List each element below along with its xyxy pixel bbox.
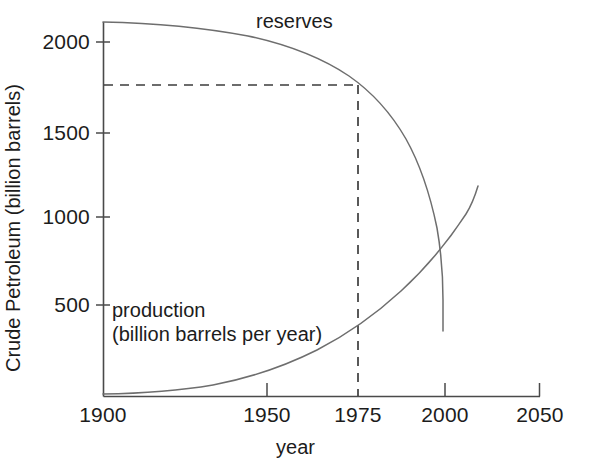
y-axis-title: Crude Petroleum (billion barrels) <box>3 84 23 372</box>
figure-caption-partial <box>0 456 591 469</box>
series-label-production: production (billion barrels per year) <box>112 299 322 346</box>
y-tick-label-1000: 1000 <box>22 206 90 227</box>
x-axis-title: year <box>0 437 591 457</box>
series-line-reserves <box>103 22 443 331</box>
series-line-production <box>103 186 478 394</box>
x-tick-label-1950: 1950 <box>227 404 307 425</box>
chart-plot-area <box>0 0 591 469</box>
series-label-reserves: reserves <box>256 10 333 34</box>
series-label-production-line2: (billion barrels per year) <box>112 323 322 347</box>
y-tick-label-500: 500 <box>22 294 90 315</box>
figure-container: 2000 1500 1000 500 1900 1950 1975 2000 2… <box>0 0 591 469</box>
x-tick-label-1900: 1900 <box>63 404 143 425</box>
y-tick-label-1500: 1500 <box>22 122 90 143</box>
x-tick-label-1975: 1975 <box>318 404 398 425</box>
x-tick-label-2050: 2050 <box>500 404 580 425</box>
y-tick-label-2000: 2000 <box>22 31 90 52</box>
x-tick-label-2000: 2000 <box>405 404 485 425</box>
series-label-production-line1: production <box>112 299 322 323</box>
